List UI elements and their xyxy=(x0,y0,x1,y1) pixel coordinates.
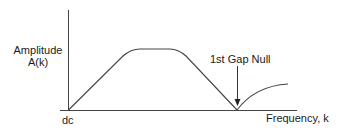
y-axis-label-line2: A(k) xyxy=(12,56,64,68)
y-axis-label: Amplitude A(k) xyxy=(12,44,64,68)
x-origin-label: dc xyxy=(62,114,74,126)
x-axis-label: Frequency, k xyxy=(266,112,329,124)
first-gap-null-annotation: 1st Gap Null xyxy=(210,53,271,65)
y-axis-label-line1: Amplitude xyxy=(12,44,64,56)
arrow-down-icon xyxy=(235,99,241,106)
amplitude-curve-side-lobe xyxy=(237,84,288,110)
